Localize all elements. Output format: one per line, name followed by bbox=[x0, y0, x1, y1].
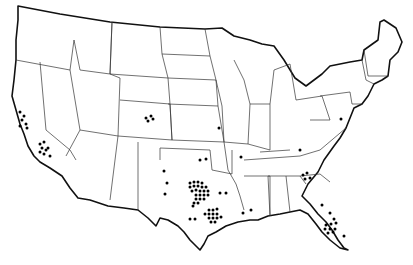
location-dot bbox=[214, 221, 217, 224]
location-dot bbox=[41, 147, 44, 150]
location-dot bbox=[197, 185, 200, 188]
location-dot bbox=[218, 127, 221, 130]
location-dot bbox=[321, 204, 324, 207]
location-dot bbox=[189, 186, 192, 189]
location-dot bbox=[203, 194, 206, 197]
location-dot bbox=[193, 185, 196, 188]
location-dot bbox=[194, 218, 197, 221]
location-dot bbox=[208, 217, 211, 220]
location-dot bbox=[327, 232, 330, 235]
location-dot bbox=[23, 115, 26, 118]
location-dot bbox=[39, 143, 42, 146]
location-dot bbox=[49, 155, 52, 158]
location-dot bbox=[145, 117, 148, 120]
location-dot bbox=[205, 186, 208, 189]
location-dot bbox=[43, 153, 46, 156]
location-dot bbox=[204, 213, 207, 216]
location-dot bbox=[212, 213, 215, 216]
location-dot bbox=[192, 205, 195, 208]
location-dot bbox=[191, 190, 194, 193]
location-dot bbox=[197, 202, 200, 205]
location-dot bbox=[325, 224, 328, 227]
location-dot bbox=[330, 223, 333, 226]
location-dot bbox=[212, 209, 215, 212]
country-outline bbox=[12, 6, 402, 250]
location-dot bbox=[47, 147, 50, 150]
location-dot bbox=[205, 158, 208, 161]
location-dot bbox=[189, 182, 192, 185]
location-dot bbox=[240, 156, 243, 159]
location-dot bbox=[220, 216, 223, 219]
location-dot bbox=[208, 213, 211, 216]
location-dot bbox=[195, 198, 198, 201]
location-dot bbox=[250, 209, 253, 212]
location-dot bbox=[208, 209, 211, 212]
location-dot bbox=[334, 228, 337, 231]
location-dot bbox=[329, 212, 332, 215]
location-dot bbox=[26, 127, 29, 130]
location-dot bbox=[21, 119, 24, 122]
location-dot bbox=[39, 151, 42, 154]
location-dot bbox=[163, 170, 166, 173]
location-dot bbox=[210, 221, 213, 224]
location-dot bbox=[147, 120, 150, 123]
location-dot bbox=[201, 182, 204, 185]
location-dot bbox=[199, 198, 202, 201]
location-dot bbox=[152, 118, 155, 121]
location-dot bbox=[225, 192, 228, 195]
location-dot bbox=[199, 190, 202, 193]
location-dot bbox=[203, 198, 206, 201]
location-dot bbox=[207, 194, 210, 197]
location-dot bbox=[340, 118, 343, 121]
location-dot bbox=[329, 228, 332, 231]
location-dot bbox=[203, 190, 206, 193]
location-dot bbox=[302, 174, 305, 177]
location-dot bbox=[193, 181, 196, 184]
location-dot bbox=[19, 125, 22, 128]
location-dot bbox=[19, 111, 22, 114]
location-dot bbox=[216, 217, 219, 220]
location-dot bbox=[219, 192, 222, 195]
location-dot bbox=[216, 208, 219, 211]
location-dot bbox=[199, 194, 202, 197]
location-dot bbox=[199, 159, 202, 162]
data-points bbox=[19, 111, 346, 238]
location-dot bbox=[332, 231, 335, 234]
location-dot bbox=[166, 182, 169, 185]
location-dot bbox=[324, 228, 327, 231]
location-dot bbox=[207, 190, 210, 193]
location-dot bbox=[304, 178, 307, 181]
location-dot bbox=[195, 189, 198, 192]
location-dot bbox=[306, 172, 309, 175]
location-dot bbox=[189, 218, 192, 221]
location-dot bbox=[43, 141, 46, 144]
location-dot bbox=[343, 235, 346, 238]
location-dot bbox=[25, 123, 28, 126]
location-dot bbox=[164, 193, 167, 196]
location-dot bbox=[216, 213, 219, 216]
location-dot bbox=[212, 217, 215, 220]
location-dot bbox=[195, 194, 198, 197]
location-dot bbox=[193, 202, 196, 205]
location-dot bbox=[197, 181, 200, 184]
location-dot bbox=[150, 115, 153, 118]
us-map bbox=[0, 0, 413, 265]
location-dot bbox=[333, 218, 336, 221]
location-dot bbox=[309, 177, 312, 180]
location-dot bbox=[299, 149, 302, 152]
location-dot bbox=[242, 212, 245, 215]
location-dot bbox=[335, 222, 338, 225]
location-dot bbox=[201, 186, 204, 189]
